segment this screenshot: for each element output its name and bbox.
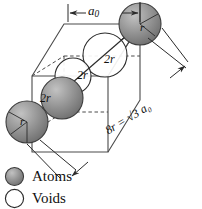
label-diameter-void-upper: 2r — [104, 53, 115, 65]
bcc-unit-cell-figure: a0 r r 2r 2r 2r 8r = √3 a₀ Atoms Voids — [0, 0, 202, 209]
legend-item-voids: Voids — [4, 188, 66, 209]
label-lattice-parameter: a0 — [88, 4, 99, 20]
label-radius-top-right-atom: r — [140, 22, 144, 33]
atom-corner-bottom-left — [6, 101, 48, 143]
label-radius-bottom-left-atom: r — [20, 116, 24, 127]
legend-label-voids: Voids — [32, 191, 66, 206]
voids-swatch-icon — [4, 188, 25, 209]
atoms-swatch-icon — [4, 166, 25, 187]
legend-label-atoms: Atoms — [32, 169, 72, 184]
label-diameter-void-middle: 2r — [77, 69, 88, 81]
legend-item-atoms: Atoms — [4, 166, 72, 187]
label-diameter-body-center-atom: 2r — [40, 92, 51, 104]
